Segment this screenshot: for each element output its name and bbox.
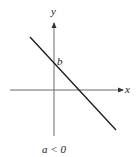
x-axis-label: x [124,83,130,95]
intercept-label: b [57,55,63,67]
graph-canvas: y x b a < 0 [0,0,139,157]
caption: a < 0 [42,143,66,155]
y-axis-label: y [50,5,56,17]
function-line [30,37,116,130]
